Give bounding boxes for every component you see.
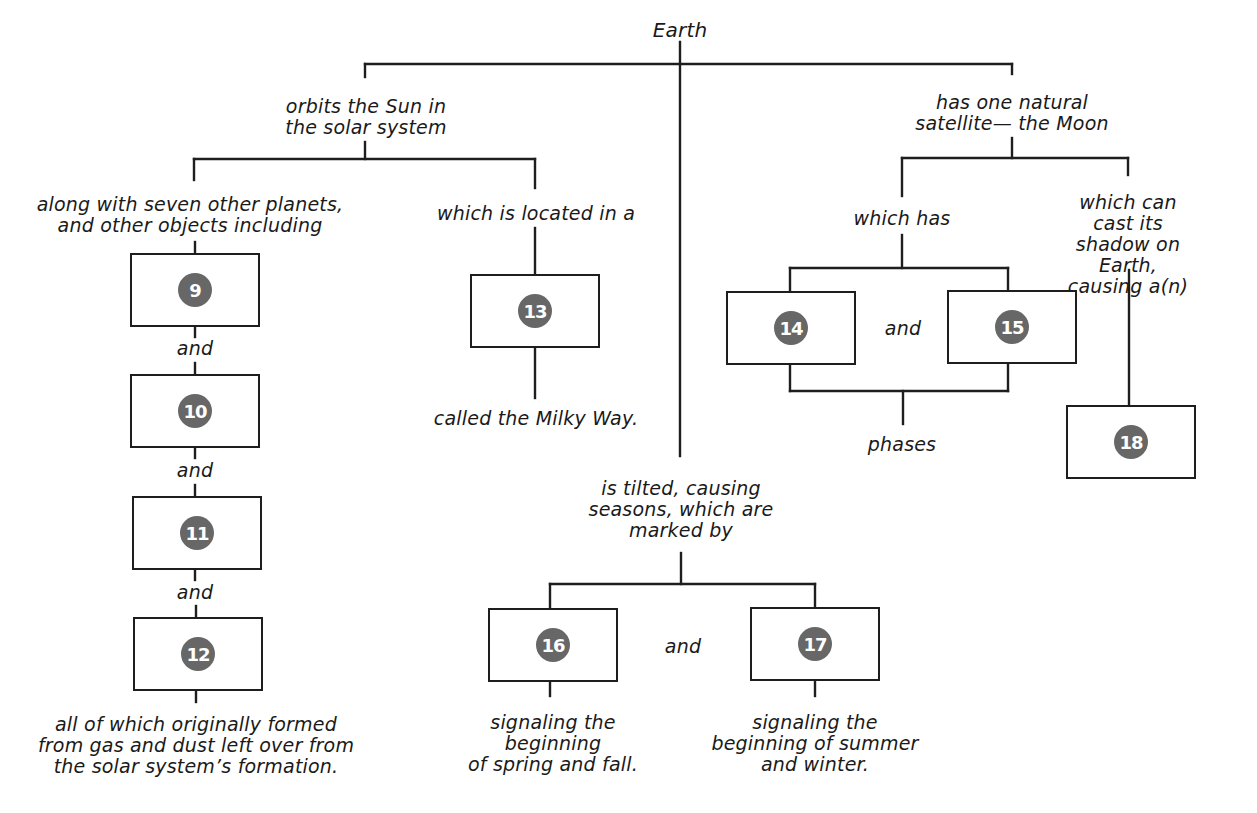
connector-and: and xyxy=(665,636,701,657)
number-badge: 14 xyxy=(774,311,808,345)
label-natural-satellite: has one natural satellite— the Moon xyxy=(915,92,1108,134)
label-phases: phases xyxy=(868,434,936,455)
number-badge: 18 xyxy=(1114,425,1148,459)
label-which-has: which has xyxy=(854,208,951,229)
connector-and: and xyxy=(177,582,213,603)
answer-box-9[interactable]: 9 xyxy=(130,253,260,327)
answer-box-13[interactable]: 13 xyxy=(470,274,600,348)
answer-box-10[interactable]: 10 xyxy=(130,374,260,448)
answer-box-11[interactable]: 11 xyxy=(132,496,262,570)
connector-and: and xyxy=(177,338,213,359)
answer-box-16[interactable]: 16 xyxy=(488,608,618,682)
label-located-in: which is located in a xyxy=(437,203,635,224)
number-badge: 16 xyxy=(536,628,570,662)
connector-and: and xyxy=(177,460,213,481)
answer-box-12[interactable]: 12 xyxy=(133,617,263,691)
label-formed-from-gas: all of which originally formed from gas … xyxy=(38,714,354,777)
number-badge: 17 xyxy=(798,627,832,661)
label-orbits-sun: orbits the Sun in the solar system xyxy=(285,96,446,138)
label-spring-fall: signaling the beginning of spring and fa… xyxy=(468,712,638,775)
number-badge: 15 xyxy=(995,310,1029,344)
number-badge: 12 xyxy=(181,637,215,671)
answer-box-18[interactable]: 18 xyxy=(1066,405,1196,479)
connector-and: and xyxy=(885,318,921,339)
root-label-earth: Earth xyxy=(653,20,708,41)
label-cast-shadow: which can cast its shadow on Earth, caus… xyxy=(1064,192,1193,297)
number-badge: 10 xyxy=(178,394,212,428)
label-along-with-planets: along with seven other planets, and othe… xyxy=(37,194,344,236)
number-badge: 9 xyxy=(178,273,212,307)
number-badge: 13 xyxy=(518,294,552,328)
label-tilted-seasons: is tilted, causing seasons, which are ma… xyxy=(589,478,774,541)
label-summer-winter: signaling the beginning of summer and wi… xyxy=(711,712,918,775)
label-milky-way: called the Milky Way. xyxy=(434,408,638,429)
answer-box-17[interactable]: 17 xyxy=(750,607,880,681)
number-badge: 11 xyxy=(180,516,214,550)
answer-box-14[interactable]: 14 xyxy=(726,291,856,365)
concept-map: Earth orbits the Sun in the solar system… xyxy=(0,0,1257,813)
answer-box-15[interactable]: 15 xyxy=(947,290,1077,364)
